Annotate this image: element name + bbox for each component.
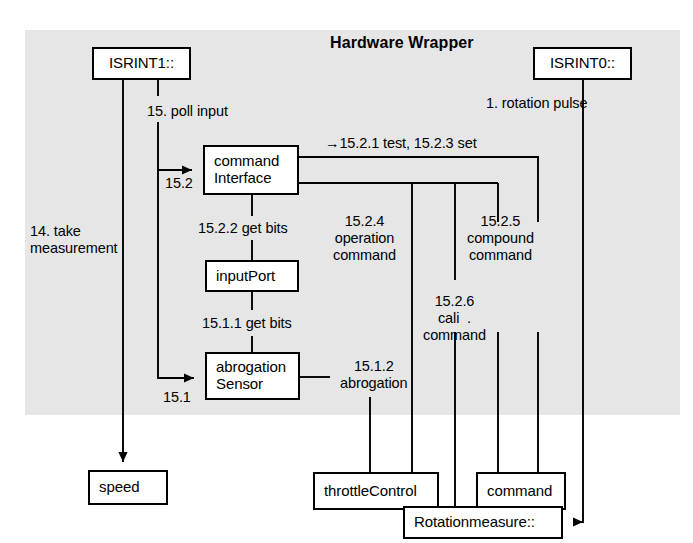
- edge-label-15-1: 15.1: [163, 389, 191, 406]
- node-input-port[interactable]: inputPort: [205, 260, 299, 292]
- connector-isrint1-to-command-interface: [158, 122, 192, 170]
- node-command-label: command: [478, 483, 564, 500]
- node-isrint0[interactable]: ISRINT0::: [533, 47, 632, 80]
- node-command-interface-label-1: command: [205, 153, 297, 170]
- page-title: Hardware Wrapper: [330, 34, 474, 52]
- edge-label-operation-command: 15.2.4 operation command: [333, 213, 396, 264]
- node-abrogation-sensor[interactable]: abrogation Sensor: [205, 352, 300, 400]
- edge-label-abrogation-1512: 15.1.2 abrogation: [340, 358, 408, 392]
- node-speed-label: speed: [90, 479, 166, 496]
- node-command-interface[interactable]: command Interface: [203, 145, 299, 195]
- edge-label-get-bits-1522: 15.2.2 get bits: [198, 220, 288, 237]
- edge-label-get-bits-1511: 15.1.1 get bits: [202, 315, 292, 332]
- node-throttle-control-label: throttleControl: [315, 483, 437, 500]
- edge-label-test-set: →15.2.1 test, 15.2.3 set: [325, 135, 477, 152]
- edge-label-cali-command: 15.2.6 cali . command: [423, 293, 486, 344]
- node-command-interface-label-2: Interface: [205, 170, 297, 187]
- connector-layer: [0, 0, 693, 543]
- connector-isrint0-to-rotation-measure: [575, 80, 583, 522]
- edge-label-poll-input: 15. poll input: [147, 103, 228, 120]
- node-rotation-measure-label: Rotationmeasure::: [405, 514, 561, 531]
- connector-isrint1-to-abrogation-sensor: [158, 170, 194, 378]
- node-abrogation-sensor-label-1: abrogation: [207, 359, 298, 376]
- node-command[interactable]: command: [476, 472, 566, 510]
- diagram-canvas: Hardware Wrapper ISRINT1:: ISRINT0:: com…: [0, 0, 693, 543]
- node-speed[interactable]: speed: [88, 470, 168, 505]
- edge-label-take-measurement: 14. take measurement: [30, 223, 118, 257]
- node-rotation-measure[interactable]: Rotationmeasure::: [403, 506, 563, 539]
- edge-label-rotation-pulse: 1. rotation pulse: [486, 95, 587, 112]
- edge-label-compound-command: 15.2.5 compound command: [467, 213, 534, 264]
- node-isrint0-label: ISRINT0::: [535, 55, 630, 72]
- node-abrogation-sensor-label-2: Sensor: [207, 376, 298, 393]
- node-isrint1-label: ISRINT1::: [94, 55, 189, 72]
- edge-label-15-2: 15.2: [165, 175, 193, 192]
- node-throttle-control[interactable]: throttleControl: [313, 472, 439, 510]
- node-input-port-label: inputPort: [207, 268, 297, 285]
- node-isrint1[interactable]: ISRINT1::: [92, 47, 191, 80]
